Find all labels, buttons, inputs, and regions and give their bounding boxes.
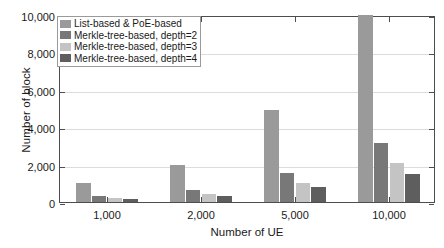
bar xyxy=(280,173,295,202)
bar xyxy=(123,199,138,202)
bar xyxy=(186,190,201,202)
x-tick-mark xyxy=(295,17,296,22)
bar xyxy=(170,165,185,202)
bar xyxy=(296,183,311,202)
legend-swatch-icon xyxy=(60,31,71,39)
bar xyxy=(374,143,389,202)
x-tick-label: 5,000 xyxy=(281,209,309,221)
x-tick-label: 2,000 xyxy=(187,209,215,221)
y-tick-label: 10,000 xyxy=(21,11,55,23)
x-tick-mark xyxy=(295,197,296,202)
bar xyxy=(311,187,326,202)
x-tick-mark xyxy=(201,197,202,202)
legend-item: Merkle-tree-based, depth=4 xyxy=(60,53,197,65)
bar xyxy=(358,15,373,202)
x-tick-label: 10,000 xyxy=(372,209,406,221)
bar xyxy=(390,163,405,202)
x-tick-mark xyxy=(107,197,108,202)
bar-chart-figure: Number of block 02,0004,0006,0008,00010,… xyxy=(0,0,444,248)
y-tick-label: 0 xyxy=(49,198,55,210)
bar xyxy=(217,196,232,202)
y-tick-mark xyxy=(60,204,65,205)
legend-swatch-icon xyxy=(60,20,71,28)
x-tick-mark xyxy=(389,17,390,22)
legend-item: List-based & PoE-based xyxy=(60,18,197,30)
y-tick-label: 2,000 xyxy=(27,161,55,173)
y-tick-label: 8,000 xyxy=(27,48,55,60)
bar xyxy=(264,110,279,202)
chart-legend: List-based & PoE-basedMerkle-tree-based,… xyxy=(57,16,201,67)
legend-label: Merkle-tree-based, depth=2 xyxy=(74,30,197,42)
legend-label: List-based & PoE-based xyxy=(74,18,182,30)
legend-label: Merkle-tree-based, depth=3 xyxy=(74,41,197,53)
bar xyxy=(202,194,217,202)
x-tick-mark xyxy=(201,17,202,22)
bar xyxy=(76,183,91,202)
legend-swatch-icon xyxy=(60,54,71,62)
legend-label: Merkle-tree-based, depth=4 xyxy=(74,53,197,65)
bar xyxy=(92,196,107,202)
y-tick-mark xyxy=(429,204,434,205)
legend-item: Merkle-tree-based, depth=2 xyxy=(60,30,197,42)
legend-swatch-icon xyxy=(60,43,71,51)
x-tick-mark xyxy=(389,197,390,202)
x-tick-label: 1,000 xyxy=(93,209,121,221)
y-tick-label: 4,000 xyxy=(27,123,55,135)
y-tick-label: 6,000 xyxy=(27,86,55,98)
bar xyxy=(405,174,420,202)
legend-item: Merkle-tree-based, depth=3 xyxy=(60,41,197,53)
x-axis-title: Number of UE xyxy=(59,226,435,238)
bar xyxy=(108,198,123,202)
